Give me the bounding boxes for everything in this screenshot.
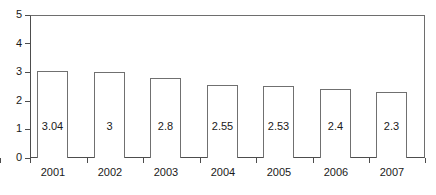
bar-2006[interactable]: 2.4 [320, 89, 351, 158]
bar-value-2004: 2.55 [208, 121, 237, 132]
x-category-label-2005: 2005 [259, 166, 299, 178]
x-tick-mark-3 [200, 158, 201, 163]
x-category-label-2006: 2006 [316, 166, 356, 178]
bar-2002[interactable]: 3 [94, 72, 125, 158]
x-category-label-2007: 2007 [372, 166, 412, 178]
bar-2001[interactable]: 3.04 [37, 71, 68, 158]
x-category-label-2004: 2004 [203, 166, 243, 178]
bar-2005[interactable]: 2.53 [263, 86, 294, 158]
x-tick-mark-4 [256, 158, 257, 163]
y-tick-label-4: 4 [16, 38, 22, 49]
x-tick-mark-1 [0, 158, 1, 163]
x-tick-mark-1b [87, 158, 88, 163]
y-axis: 5 4 3 2 1 0 [0, 0, 30, 195]
bar-value-2007: 2.3 [377, 121, 406, 132]
x-category-label-2002: 2002 [90, 166, 130, 178]
x-tick-mark-2 [143, 158, 144, 163]
x-tick-mark-6 [369, 158, 370, 163]
y-tick-label-0: 0 [16, 152, 22, 163]
y-tick-label-1: 1 [16, 123, 22, 134]
bar-chart: 5 4 3 2 1 0 3.04 3 2.8 2.55 2.53 2.4 [0, 0, 436, 195]
bar-2007[interactable]: 2.3 [376, 92, 407, 158]
x-category-label-2003: 2003 [146, 166, 186, 178]
y-tick-label-5: 5 [16, 9, 22, 20]
bar-2004[interactable]: 2.55 [207, 85, 238, 158]
bar-value-2001: 3.04 [38, 121, 67, 132]
bar-2003[interactable]: 2.8 [150, 78, 181, 158]
bar-value-2003: 2.8 [151, 121, 180, 132]
x-tick-mark-5 [313, 158, 314, 163]
bar-value-2006: 2.4 [321, 121, 350, 132]
bar-value-2005: 2.53 [264, 121, 293, 132]
bar-value-2002: 3 [95, 121, 124, 132]
x-category-label-2001: 2001 [33, 166, 73, 178]
x-tick-mark-0 [30, 158, 31, 163]
x-tick-mark-7 [425, 158, 426, 163]
y-tick-label-2: 2 [16, 95, 22, 106]
y-tick-label-3: 3 [16, 66, 22, 77]
